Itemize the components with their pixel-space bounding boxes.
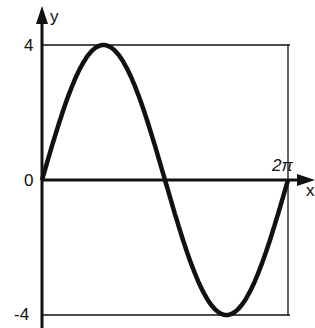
y-tick-min: -4 bbox=[14, 306, 29, 323]
x-axis-label: x bbox=[306, 182, 315, 199]
sine-chart bbox=[0, 0, 315, 328]
y-axis-label: y bbox=[50, 8, 59, 25]
y-tick-max: 4 bbox=[24, 37, 33, 54]
x-tick-period: 2π bbox=[272, 157, 293, 174]
y-tick-zero: 0 bbox=[24, 172, 33, 189]
y-axis-arrow-icon bbox=[36, 6, 48, 24]
